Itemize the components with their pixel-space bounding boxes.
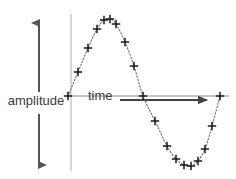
plus-marker (139, 92, 147, 100)
plus-marker (74, 68, 82, 76)
sine-wave-diagram: amplitude time (0, 0, 236, 179)
plus-marker (201, 145, 209, 153)
plus-marker (180, 161, 188, 169)
plus-marker (84, 44, 92, 52)
plus-marker (216, 92, 224, 100)
plus-marker (163, 142, 171, 150)
wave-canvas (0, 0, 236, 179)
amplitude-label: amplitude (2, 94, 70, 107)
plus-marker (187, 162, 195, 170)
plus-marker (93, 25, 101, 33)
time-label: time (88, 89, 113, 102)
plus-marker (112, 20, 120, 28)
plus-marker (121, 38, 129, 46)
plus-marker (151, 117, 159, 125)
plus-marker (130, 62, 138, 70)
plus-marker (208, 122, 216, 130)
plus-marker (106, 15, 114, 23)
